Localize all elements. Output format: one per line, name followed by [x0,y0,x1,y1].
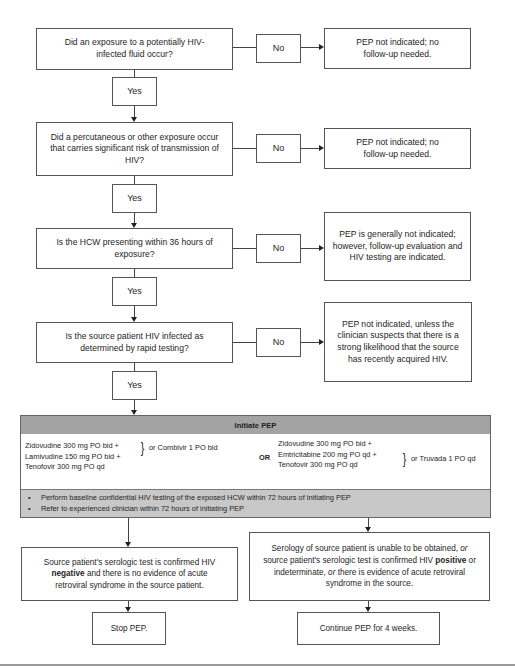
no-label-box: No [256,134,301,163]
regimen-b-alternative: or Truvada 1 PO qd [411,454,476,465]
question-text: Did an exposure to a potentially HIV-inf… [41,37,228,60]
initiate-pep-title: Initiate PEP [21,416,490,435]
connector [301,47,319,48]
brace-icon: } [403,451,407,466]
connector [134,400,135,410]
initiate-pep-panel: Initiate PEP Zidovudine 300 mg PO bid + … [20,415,491,518]
yes-label-box: Yes [112,371,157,400]
bottom-rule [0,664,515,666]
connector [368,518,369,527]
question-within-36-hours: Is the HCW presenting within 36 hours of… [36,228,233,269]
yes-label-box: Yes [112,184,157,213]
question-exposure-occurred: Did an exposure to a potentially HIV-inf… [36,28,233,70]
outcome-stop-pep: Stop PEP. [92,612,166,645]
connector [134,70,135,77]
outcome-unless-suspected: PEP not indicated, unless the clinician … [324,302,472,382]
connector [233,248,256,249]
connector [301,248,319,249]
connector [134,306,135,317]
emphasis-negative: negative [51,569,84,578]
outcome-continue-pep: Continue PEP for 4 weeks. [297,612,440,645]
pep-notes: Perform baseline confidential HIV testin… [21,489,490,517]
connector [301,148,319,149]
branch-source-positive: Serology of source patient is unable to … [249,532,490,601]
note-refer-clinician: Refer to experienced clinician within 72… [28,504,490,515]
connector [134,363,135,371]
connector [134,176,135,184]
branch-source-negative: Source patient's serologic test is confi… [21,547,238,601]
connector [134,213,135,223]
no-label-box: No [256,328,301,357]
brace-icon: } [141,440,145,455]
connector [301,342,319,343]
connector [134,106,135,117]
or-label: OR [259,453,270,464]
no-label-box: No [256,34,301,63]
question-source-hiv-infected: Is the source patient HIV infected as de… [36,322,233,363]
no-label-box: No [256,234,301,263]
regimen-b: Zidovudine 300 mg PO bid + Emtricitabine… [278,439,377,471]
question-significant-risk: Did a percutaneous or other exposure occ… [36,122,233,176]
note-baseline-testing: Perform baseline confidential HIV testin… [28,493,490,504]
regimen-a-alternative: or Combivir 1 PO bid [149,443,218,454]
connector [233,148,256,149]
connector [233,342,256,343]
emphasis-positive: positive [435,556,466,565]
connector [128,518,129,542]
yes-label-box: Yes [112,77,157,106]
outcome-no-pep: PEP not indicated; no follow-up needed. [324,28,471,69]
yes-label-box: Yes [112,277,157,306]
connector [134,269,135,277]
outcome-followup-indicated: PEP is generally not indicated; however,… [324,212,471,281]
regimen-a: Zidovudine 300 mg PO bid + Lamivudine 15… [25,441,121,473]
regimen-options: Zidovudine 300 mg PO bid + Lamivudine 15… [21,434,490,489]
outcome-no-pep: PEP not indicated; no follow-up needed. [324,128,471,169]
connector [233,47,256,48]
